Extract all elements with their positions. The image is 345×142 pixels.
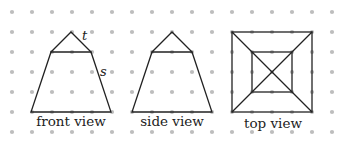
top-view-label: top view [244, 115, 302, 131]
grid-dot [30, 130, 34, 134]
grid-dot [130, 130, 134, 134]
grid-dot [10, 10, 14, 14]
grid-dot [130, 90, 134, 94]
grid-dot [330, 30, 334, 34]
grid-dot [10, 70, 14, 74]
grid-dot [110, 10, 114, 14]
grid-dot [210, 90, 214, 94]
grid-dot [150, 30, 154, 34]
grid-dot [110, 70, 114, 74]
grid-dot [210, 30, 214, 34]
grid-dot [190, 30, 194, 34]
side-view-label: side view [140, 113, 204, 129]
grid-dot [150, 70, 154, 74]
grid-dot [50, 30, 54, 34]
grid-dot [10, 30, 14, 34]
grid-dot [210, 70, 214, 74]
grid-dot [30, 50, 34, 54]
grid-dot [170, 10, 174, 14]
orthographic-views-figure: t s front view side view top view [0, 0, 345, 142]
front-view: t s front view [31, 28, 111, 129]
grid-dot [290, 10, 294, 14]
grid-dot [90, 90, 94, 94]
grid-dot [190, 70, 194, 74]
grid-dot [330, 70, 334, 74]
front-view-label: front view [36, 113, 106, 129]
grid-dot [190, 90, 194, 94]
grid-dot [10, 50, 14, 54]
grid-dot [10, 130, 14, 134]
grid-dot [130, 50, 134, 54]
top-view: top view [232, 32, 312, 131]
grid-dot [30, 90, 34, 94]
grid-dot [130, 10, 134, 14]
grid-dot [330, 10, 334, 14]
grid-dot [310, 10, 314, 14]
grid-dot [210, 10, 214, 14]
grid-dot [330, 130, 334, 134]
grid-dot [30, 10, 34, 14]
grid-dot [130, 70, 134, 74]
grid-dot [30, 70, 34, 74]
side-view-triangle [152, 32, 192, 52]
grid-dot [150, 130, 154, 134]
grid-dot [330, 110, 334, 114]
side-view-trapezoid [132, 52, 212, 112]
grid-dot [70, 10, 74, 14]
grid-dot [50, 130, 54, 134]
grid-dot [270, 10, 274, 14]
grid-dot [150, 90, 154, 94]
grid-dot [210, 50, 214, 54]
grid-dot [210, 130, 214, 134]
grid-dot [170, 70, 174, 74]
grid-dot [50, 10, 54, 14]
front-view-trapezoid [31, 52, 111, 112]
grid-dot [150, 10, 154, 14]
grid-dot [50, 90, 54, 94]
grid-dot [130, 30, 134, 34]
edge-label-s: s [100, 64, 107, 79]
grid-dot [110, 50, 114, 54]
grid-dot [330, 50, 334, 54]
grid-dot [50, 70, 54, 74]
grid-dot [10, 90, 14, 94]
figure-canvas: t s front view side view top view [0, 0, 345, 142]
grid-dot [110, 90, 114, 94]
grid-dot [330, 90, 334, 94]
grid-dot [70, 70, 74, 74]
grid-dot [30, 30, 34, 34]
grid-dot [70, 130, 74, 134]
grid-dot [170, 90, 174, 94]
grid-dot [190, 130, 194, 134]
grid-dot [250, 10, 254, 14]
grid-dot [230, 10, 234, 14]
grid-dot [230, 130, 234, 134]
grid-dot [70, 90, 74, 94]
grid-dot [170, 130, 174, 134]
grid-dot [10, 110, 14, 114]
grid-dot [310, 130, 314, 134]
grid-dot [110, 30, 114, 34]
side-view: side view [132, 32, 212, 129]
grid-dot [90, 70, 94, 74]
grid-dot [110, 130, 114, 134]
grid-dot [90, 30, 94, 34]
grid-dot [90, 10, 94, 14]
edge-label-t: t [82, 28, 88, 43]
grid-dot [190, 10, 194, 14]
grid-dot [90, 130, 94, 134]
